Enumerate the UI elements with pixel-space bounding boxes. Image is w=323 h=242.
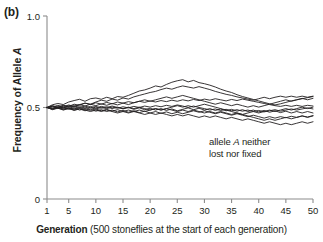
x-axis-label-bold: Generation xyxy=(36,224,87,235)
x-axis-label-rest: (500 stoneflies at the start of each gen… xyxy=(87,224,286,235)
series-group xyxy=(47,80,313,125)
x-tick-label: 50 xyxy=(308,205,319,216)
x-tick-label: 5 xyxy=(66,205,71,216)
y-tick-label: 0 xyxy=(35,194,40,205)
y-tick-label: 0.5 xyxy=(27,102,40,113)
x-axis-label: Generation (500 stoneflies at the start … xyxy=(0,224,323,235)
figure-panel-b: (b) 00.51.015101520253035404550 Frequenc… xyxy=(0,0,323,242)
x-tick-label: 45 xyxy=(281,205,292,216)
y-axis-label: Frequency of Allele A xyxy=(7,12,23,188)
x-tick-label: 1 xyxy=(44,205,49,216)
x-tick-label: 40 xyxy=(253,205,264,216)
y-axis-label-italic: A xyxy=(11,48,23,55)
annotation-prefix: allele xyxy=(209,136,233,147)
x-tick-label: 35 xyxy=(226,205,237,216)
x-tick-label: 25 xyxy=(172,205,183,216)
x-tick-label: 20 xyxy=(145,205,156,216)
x-tick-label: 15 xyxy=(118,205,129,216)
y-tick-label: 1.0 xyxy=(27,11,40,22)
x-tick-label: 10 xyxy=(91,205,102,216)
chart-annotation: allele A neither lost nor fixed xyxy=(209,136,270,160)
allele-frequency-chart: 00.51.015101520253035404550 xyxy=(0,0,323,242)
annotation-suffix: neither xyxy=(239,136,270,147)
x-tick-label: 30 xyxy=(199,205,210,216)
series-line xyxy=(47,106,313,124)
chart-annotation-line2: lost nor fixed xyxy=(209,148,270,160)
chart-annotation-line1: allele A neither xyxy=(209,136,270,148)
y-axis-label-prefix: Frequency of Allele xyxy=(11,55,23,152)
